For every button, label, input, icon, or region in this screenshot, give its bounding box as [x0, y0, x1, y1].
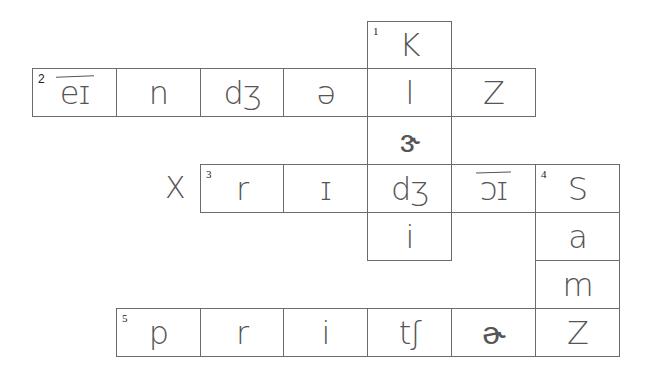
cell-phoneme: i	[406, 218, 414, 256]
cell-letter: dʒ	[368, 165, 451, 212]
crossword-cell[interactable]: ɪ	[283, 164, 368, 213]
cell-letter: dʒ	[201, 69, 283, 116]
cell-letter: n	[117, 69, 200, 116]
cell-letter: i	[284, 309, 367, 356]
cell-phoneme: i	[322, 314, 330, 352]
crossword-cell[interactable]: i	[283, 308, 368, 357]
crossword-cell[interactable]: 4S	[535, 164, 620, 213]
handwritten-mark: X	[165, 170, 186, 205]
crossword-cell[interactable]: 5p	[116, 308, 201, 357]
cell-letter: K	[368, 22, 451, 68]
cell-phoneme: Z	[567, 314, 588, 352]
cell-letter: S	[536, 165, 619, 212]
cell-letter: r	[201, 309, 283, 356]
crossword-cell[interactable]: ɔɪ	[451, 164, 536, 213]
cell-phoneme: dʒ	[391, 170, 428, 208]
cell-letter: Z	[536, 309, 619, 356]
cell-letter: ɚ	[452, 309, 535, 356]
cell-phoneme: ə	[316, 74, 335, 112]
cell-letter: p	[117, 309, 200, 356]
crossword-cell[interactable]: ɚ	[451, 308, 536, 357]
cell-phoneme: Z	[483, 74, 504, 112]
crossword-cell[interactable]: i	[367, 212, 452, 261]
cell-phoneme: dʒ	[224, 74, 261, 112]
crossword-cell[interactable]: 2eɪ	[32, 68, 117, 117]
cell-letter: a	[536, 213, 619, 260]
cell-letter: l	[368, 69, 451, 116]
crossword-cell[interactable]: 1K	[367, 21, 452, 69]
cell-letter: ɝ	[368, 117, 451, 164]
crossword-cell[interactable]: dʒ	[367, 164, 452, 213]
cell-phoneme: r	[236, 170, 248, 208]
cell-phoneme: l	[406, 74, 414, 112]
crossword-cell[interactable]: Z	[451, 68, 536, 117]
cell-letter: Z	[452, 69, 535, 116]
crossword-cell[interactable]: l	[367, 68, 452, 117]
crossword-cell[interactable]: r	[200, 308, 284, 357]
cell-letter: ə	[284, 69, 367, 116]
cell-phoneme: m	[562, 266, 592, 304]
cell-phoneme: ɔɪ	[480, 170, 507, 208]
cell-letter: m	[536, 261, 619, 308]
cell-letter: ɪ	[284, 165, 367, 212]
cell-phoneme: r	[236, 314, 248, 352]
crossword-cell[interactable]: m	[535, 260, 620, 309]
crossword-cell[interactable]: Z	[535, 308, 620, 357]
crossword-cell[interactable]: 3r	[200, 164, 284, 213]
crossword-cell[interactable]: dʒ	[200, 68, 284, 117]
cell-phoneme: S	[568, 170, 587, 208]
cell-phoneme: tʃ	[399, 314, 420, 352]
cell-letter: tʃ	[368, 309, 451, 356]
cell-letter: i	[368, 213, 451, 260]
cell-phoneme: a	[568, 218, 587, 256]
crossword-cell[interactable]: ɝ	[367, 116, 452, 165]
crossword-cell[interactable]: n	[116, 68, 201, 117]
cell-phoneme: ɪ	[320, 170, 331, 208]
cell-letter: r	[201, 165, 283, 212]
cell-phoneme: n	[149, 74, 168, 112]
cell-letter: ɔɪ	[452, 165, 535, 212]
cell-letter: eɪ	[33, 69, 116, 116]
crossword-cell[interactable]: tʃ	[367, 308, 452, 357]
cell-phoneme: eɪ	[60, 74, 90, 112]
crossword-cell[interactable]: a	[535, 212, 620, 261]
cell-phoneme: p	[149, 314, 168, 352]
cell-phoneme: ɝ	[400, 122, 419, 160]
cell-phoneme: ɚ	[482, 314, 505, 352]
cell-phoneme: K	[400, 26, 420, 64]
crossword-cell[interactable]: ə	[283, 68, 368, 117]
